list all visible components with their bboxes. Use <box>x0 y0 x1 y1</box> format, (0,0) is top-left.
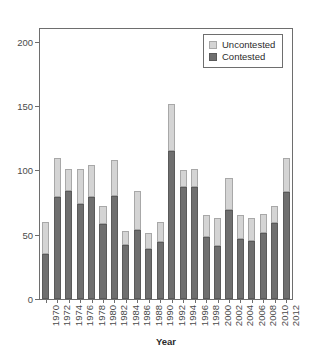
bar-1972[interactable] <box>54 158 61 299</box>
x-axis-tick-label: 1982 <box>118 305 129 326</box>
bar-2012[interactable] <box>283 158 290 299</box>
x-axis-tick <box>183 299 184 303</box>
x-axis-tick-label: 2004 <box>244 305 255 326</box>
bar-1978[interactable] <box>88 165 95 299</box>
bar-segment-contested <box>168 151 175 299</box>
x-axis-tick <box>160 299 161 303</box>
x-axis-tick-label: 1996 <box>199 305 210 326</box>
bar-2010[interactable] <box>271 206 278 299</box>
x-axis-tick-label: 1976 <box>84 305 95 326</box>
bar-segment-uncontested <box>260 214 267 233</box>
bar-1980[interactable] <box>99 206 106 299</box>
y-axis-tick <box>35 299 39 300</box>
x-axis-tick-label: 1988 <box>153 305 164 326</box>
x-axis-tick <box>80 299 81 303</box>
bar-segment-uncontested <box>283 158 290 193</box>
bar-segment-contested <box>271 223 278 299</box>
x-axis-tick <box>103 299 104 303</box>
x-axis-tick-label: 1972 <box>61 305 72 326</box>
bar-segment-contested <box>111 196 118 299</box>
bar-segment-contested <box>54 197 61 299</box>
x-axis-tick <box>69 299 70 303</box>
bar-1994[interactable] <box>180 170 187 299</box>
bar-segment-contested <box>225 210 232 299</box>
x-axis-tick-label: 1978 <box>96 305 107 326</box>
bar-segment-uncontested <box>248 218 255 241</box>
bar-segment-contested <box>77 204 84 299</box>
bar-segment-contested <box>283 192 290 299</box>
x-axis-tick-label: 1992 <box>176 305 187 326</box>
x-axis-tick-label: 1998 <box>210 305 221 326</box>
bar-segment-uncontested <box>77 169 84 204</box>
y-axis-tick-label: 150 <box>17 101 33 112</box>
bar-1992[interactable] <box>168 104 175 299</box>
chart-legend: Uncontested Contested <box>203 34 283 68</box>
bar-1982[interactable] <box>111 160 118 299</box>
bar-1984[interactable] <box>122 231 129 299</box>
x-axis-tick <box>240 299 241 303</box>
bar-1976[interactable] <box>77 169 84 299</box>
bar-1988[interactable] <box>145 233 152 299</box>
legend-item-contested[interactable]: Contested <box>209 51 275 63</box>
x-axis-tick <box>263 299 264 303</box>
bar-segment-uncontested <box>237 215 244 238</box>
bar-segment-uncontested <box>134 191 141 230</box>
bar-segment-uncontested <box>145 233 152 248</box>
x-axis-tick <box>286 299 287 303</box>
bar-segment-uncontested <box>191 169 198 187</box>
bar-segment-contested <box>237 239 244 299</box>
bar-segment-uncontested <box>225 178 232 210</box>
bar-1998[interactable] <box>203 215 210 299</box>
bar-1990[interactable] <box>157 222 164 299</box>
x-axis-tick <box>218 299 219 303</box>
bar-1970[interactable] <box>42 222 49 299</box>
bar-segment-uncontested <box>88 165 95 197</box>
bar-segment-contested <box>145 249 152 299</box>
plot-area: 0501001502001970197219741976197819801982… <box>39 28 293 300</box>
x-axis-tick <box>137 299 138 303</box>
x-axis-tick <box>252 299 253 303</box>
bar-segment-uncontested <box>214 218 221 246</box>
bar-2000[interactable] <box>214 218 221 299</box>
x-axis-tick-label: 2012 <box>290 305 301 326</box>
legend-label-contested: Contested <box>222 51 265 63</box>
chart-figure: 0501001502001970197219741976197819801982… <box>0 0 317 359</box>
bar-segment-uncontested <box>54 158 61 198</box>
legend-item-uncontested[interactable]: Uncontested <box>209 39 275 51</box>
x-axis-title: Year <box>39 336 293 347</box>
bar-segment-uncontested <box>168 104 175 152</box>
bar-1996[interactable] <box>191 169 198 299</box>
bar-1974[interactable] <box>65 169 72 299</box>
x-axis-tick-label: 1980 <box>107 305 118 326</box>
legend-label-uncontested: Uncontested <box>222 39 275 51</box>
x-axis-tick <box>114 299 115 303</box>
bar-segment-uncontested <box>99 206 106 224</box>
bar-segment-contested <box>203 237 210 299</box>
bar-segment-contested <box>157 242 164 299</box>
uncontested-swatch-icon <box>209 41 217 49</box>
x-axis-tick-label: 2006 <box>256 305 267 326</box>
bar-2006[interactable] <box>248 218 255 299</box>
bar-segment-contested <box>65 191 72 299</box>
x-axis-tick-label: 2010 <box>279 305 290 326</box>
bar-2004[interactable] <box>237 215 244 299</box>
bar-segment-contested <box>42 254 49 299</box>
y-axis-tick <box>35 170 39 171</box>
bar-segment-uncontested <box>180 170 187 187</box>
bar-2002[interactable] <box>225 178 232 299</box>
y-axis-tick-label: 50 <box>22 229 33 240</box>
x-axis-tick <box>149 299 150 303</box>
x-axis-tick-label: 1984 <box>130 305 141 326</box>
x-axis-tick <box>206 299 207 303</box>
bar-1986[interactable] <box>134 191 141 299</box>
contested-swatch-icon <box>209 53 217 61</box>
bar-segment-contested <box>88 197 95 299</box>
bar-2008[interactable] <box>260 214 267 299</box>
bar-segment-uncontested <box>203 215 210 237</box>
y-axis-tick <box>35 42 39 43</box>
x-axis-tick-label: 1974 <box>73 305 84 326</box>
bar-segment-contested <box>260 233 267 299</box>
y-axis-tick-label: 0 <box>28 294 33 305</box>
x-axis-tick-label: 2008 <box>267 305 278 326</box>
x-axis-tick-label: 1970 <box>50 305 61 326</box>
